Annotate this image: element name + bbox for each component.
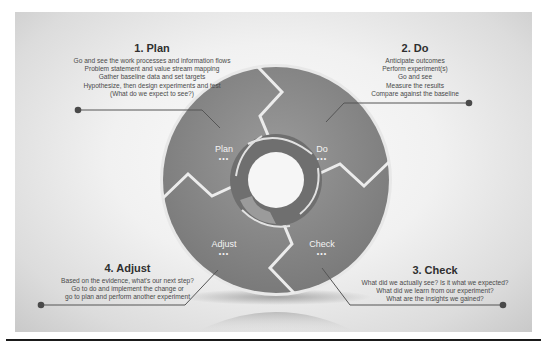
step-do-line: Compare against the baseline [345,90,485,98]
step-check-line: What did we actually see? Is it what we … [340,279,530,287]
step-check: 3. Check What did we actually see? Is it… [340,264,530,304]
step-plan-line: Gather baseline data and set targets [52,73,252,81]
step-adjust-line: Based on the evidence, what's our next s… [40,277,215,285]
step-do: 2. Do Anticipate outcomes Perform experi… [345,42,485,98]
step-plan-line: Hypothesize, then design experiments and… [52,82,252,90]
step-do-line: Measure the results [345,82,485,90]
bottom-rule [6,339,541,341]
plan-dots-icon: ••• [199,155,249,162]
step-do-line: Anticipate outcomes [345,57,485,65]
step-adjust-line: go to plan and perform another experimen… [40,293,215,301]
step-check-line: What did we learn from our experiment? [340,287,530,295]
step-check-title: 3. Check [340,264,530,277]
step-check-line: What are the insights we gained? [340,295,530,303]
segment-label-do: Do [297,144,347,154]
step-adjust-title: 4. Adjust [40,262,215,275]
segment-label-adjust: Adjust [199,239,249,249]
step-adjust-line: Go to do and implement the change or [40,285,215,293]
step-do-line: Perform experiment(s) [345,65,485,73]
step-plan-line: Problem statement and value stream mappi… [52,65,252,73]
adjust-dots-icon: ••• [199,250,249,257]
step-plan-line: Go and see the work processes and inform… [52,57,252,65]
step-adjust: 4. Adjust Based on the evidence, what's … [40,262,215,302]
step-plan-line: (What do we expect to see?) [52,90,252,98]
do-dots-icon: ••• [297,155,347,162]
segment-label-plan: Plan [199,144,249,154]
wheel-reflection [196,312,356,332]
segment-label-check: Check [297,239,347,249]
step-do-title: 2. Do [345,42,485,55]
step-plan: 1. Plan Go and see the work processes an… [52,42,252,98]
step-do-line: Go and see [345,73,485,81]
wheel-center-hole [248,152,304,208]
check-dots-icon: ••• [297,250,347,257]
step-plan-title: 1. Plan [52,42,252,55]
